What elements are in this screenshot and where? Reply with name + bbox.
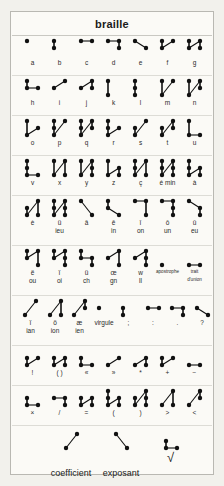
braille-cell[interactable]: ( [100, 386, 127, 426]
braille-dots-icon [46, 117, 73, 140]
braille-cell[interactable]: = [73, 386, 100, 426]
braille-cell[interactable]: traitd'union [181, 246, 208, 296]
braille-cell[interactable]: œgn [100, 246, 127, 296]
braille-cell[interactable]: − [181, 346, 208, 386]
braille-cell[interactable]: * [127, 346, 154, 386]
braille-dots-icon [181, 347, 208, 370]
braille-cell[interactable]: d [100, 36, 127, 76]
braille-cell[interactable]: wll [127, 246, 154, 296]
braille-cell[interactable]: s [127, 116, 154, 156]
braille-cell[interactable]: â [73, 196, 100, 246]
braille-cell[interactable]: « [73, 346, 100, 386]
braille-cell-label: œ [100, 269, 127, 277]
braille-cell-label: : [140, 319, 167, 327]
braille-cell-sublabel: ll [127, 277, 154, 285]
braille-cell-label: ? [189, 319, 216, 327]
braille-cell-label: c [73, 59, 100, 67]
braille-cell[interactable]: æien [66, 296, 93, 346]
braille-cell[interactable]: : [140, 296, 167, 346]
braille-cell-label: trait [181, 269, 208, 275]
braille-cell[interactable]: u [181, 116, 208, 156]
braille-cell[interactable]: à [181, 156, 208, 196]
braille-chart-card: braille abcdefghijklmnopqrstuvxyzçé minà… [10, 11, 214, 475]
braille-cell-label: ï [17, 319, 44, 327]
braille-cell[interactable]: m [154, 76, 181, 116]
braille-dots-icon [46, 157, 73, 180]
braille-cell[interactable]: < [181, 386, 208, 426]
braille-cell-label: « [73, 369, 100, 377]
braille-dots-icon [73, 77, 100, 100]
braille-cell[interactable]: ; [115, 296, 142, 346]
braille-cell[interactable]: e [127, 36, 154, 76]
braille-cell[interactable]: n [181, 76, 208, 116]
braille-cell[interactable]: ëou [19, 246, 46, 296]
braille-dots-icon [127, 347, 154, 370]
braille-cell-sublabel: in [100, 227, 127, 235]
braille-cell-label: m [154, 99, 181, 107]
braille-cell-label: v [19, 179, 46, 187]
braille-cell[interactable]: t [154, 116, 181, 156]
braille-cell-label: * [127, 369, 154, 377]
braille-cell[interactable]: c [73, 36, 100, 76]
braille-cell-label: ö [42, 319, 69, 327]
braille-cell[interactable]: l [127, 76, 154, 116]
braille-dots-icon [46, 387, 73, 410]
braille-dots-icon [154, 347, 181, 370]
braille-cell[interactable]: v [19, 156, 46, 196]
braille-dots-icon [19, 77, 46, 100]
braille-row: hijklmn [11, 76, 213, 116]
braille-cell[interactable]: k [100, 76, 127, 116]
braille-dots-icon [91, 297, 118, 320]
braille-row: èüieuâêinîonôunûeu [11, 196, 213, 246]
braille-cell[interactable]: öion [42, 296, 69, 346]
braille-cell[interactable]: ïian [17, 296, 44, 346]
braille-cell[interactable]: ? [189, 296, 216, 346]
braille-dots-icon [181, 117, 208, 140]
braille-cell[interactable]: p [46, 116, 73, 156]
braille-cell-label: e [127, 59, 154, 67]
braille-cell[interactable]: ( ) [46, 346, 73, 386]
braille-cell[interactable]: apostrophe [154, 246, 181, 296]
braille-dots-icon [100, 197, 127, 220]
braille-cell[interactable]: z [100, 156, 127, 196]
braille-cell[interactable]: y [73, 156, 100, 196]
braille-cell[interactable]: virgule [91, 296, 118, 346]
braille-cell[interactable]: ç [127, 156, 154, 196]
braille-cell[interactable]: q [73, 116, 100, 156]
braille-cell[interactable]: j [73, 76, 100, 116]
braille-row: vxyzçé minà [11, 156, 213, 196]
braille-cell[interactable]: ïoi [46, 246, 73, 296]
braille-cell[interactable]: h [19, 76, 46, 116]
braille-cell[interactable]: ûeu [181, 196, 208, 246]
braille-cell[interactable]: x [46, 156, 73, 196]
braille-cell[interactable]: . [164, 296, 191, 346]
braille-cell[interactable]: ! [19, 346, 46, 386]
braille-cell[interactable]: b [46, 36, 73, 76]
braille-dots-icon [154, 37, 181, 60]
braille-cell[interactable]: é min [154, 156, 181, 196]
braille-cell[interactable]: × [19, 386, 46, 426]
braille-cell[interactable]: » [100, 346, 127, 386]
braille-dots-icon [19, 247, 46, 270]
braille-dots-icon [115, 297, 142, 320]
braille-cell[interactable]: üieu [46, 196, 73, 246]
braille-cell[interactable]: / [46, 386, 73, 426]
braille-cell[interactable]: üch [73, 246, 100, 296]
braille-cell[interactable]: + [154, 346, 181, 386]
braille-dots-icon [73, 117, 100, 140]
braille-cell[interactable]: i [46, 76, 73, 116]
braille-cell[interactable]: ) [127, 386, 154, 426]
braille-cell[interactable]: r [100, 116, 127, 156]
braille-cell[interactable]: îon [127, 196, 154, 246]
braille-dots-icon [127, 37, 154, 60]
braille-cell[interactable]: êin [100, 196, 127, 246]
braille-cell[interactable]: o [19, 116, 46, 156]
braille-cell[interactable]: è [19, 196, 46, 246]
braille-cell[interactable]: a [19, 36, 46, 76]
braille-cell[interactable]: g [181, 36, 208, 76]
braille-cell[interactable]: f [154, 36, 181, 76]
braille-cell[interactable]: ôun [154, 196, 181, 246]
braille-cell-sublabel: un [154, 227, 181, 235]
braille-cell[interactable]: > [154, 386, 181, 426]
footer-label: exposant [89, 468, 153, 478]
